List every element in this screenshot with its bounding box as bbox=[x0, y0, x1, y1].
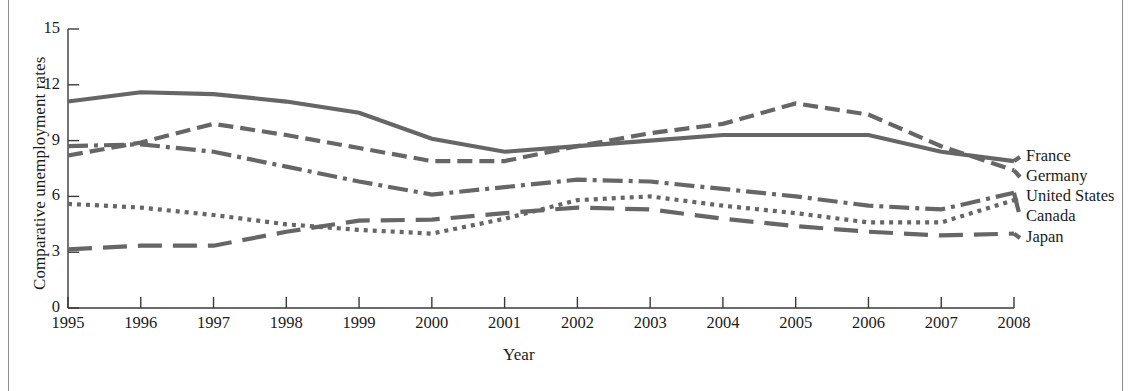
series-line-canada bbox=[68, 144, 1014, 209]
x-tick-label: 2008 bbox=[989, 313, 1039, 333]
x-tick-label: 2006 bbox=[843, 313, 893, 333]
legend-item-germany[interactable]: Germany bbox=[1026, 166, 1087, 186]
y-tick-label: 9 bbox=[20, 130, 60, 150]
x-tick-label: 2000 bbox=[407, 313, 457, 333]
x-tick-label: 1999 bbox=[334, 313, 384, 333]
legend-connector-germany bbox=[1014, 170, 1020, 177]
x-tick-label: 2004 bbox=[698, 313, 748, 333]
x-axis-title: Year bbox=[503, 345, 535, 365]
legend-item-united-states[interactable]: United States bbox=[1026, 186, 1114, 206]
y-tick-label: 0 bbox=[20, 297, 60, 317]
x-tick-label: 1998 bbox=[261, 313, 311, 333]
x-tick-label: 2007 bbox=[916, 313, 966, 333]
chart-series bbox=[68, 92, 1014, 249]
figure-container: Comparative unemployment rates Year 1995… bbox=[0, 0, 1139, 391]
x-tick-label: 1996 bbox=[116, 313, 166, 333]
x-tick-label: 2003 bbox=[625, 313, 675, 333]
legend-connector-canada bbox=[1014, 193, 1020, 217]
legend-connector-japan bbox=[1014, 234, 1020, 238]
y-tick-label: 3 bbox=[20, 241, 60, 261]
legend-item-france[interactable]: France bbox=[1026, 146, 1071, 166]
x-tick-label: 1997 bbox=[189, 313, 239, 333]
series-line-japan bbox=[68, 208, 1014, 250]
chart-axes bbox=[68, 29, 1014, 308]
legend-item-japan[interactable]: Japan bbox=[1026, 227, 1064, 247]
x-tick-label: 2001 bbox=[480, 313, 530, 333]
x-tick-label: 2005 bbox=[771, 313, 821, 333]
legend-connector-france bbox=[1014, 157, 1020, 161]
series-line-united-states bbox=[68, 196, 1014, 233]
legend-item-canada[interactable]: Canada bbox=[1026, 206, 1075, 226]
y-tick-label: 12 bbox=[20, 74, 60, 94]
y-tick-label: 15 bbox=[20, 18, 60, 38]
y-tick-label: 6 bbox=[20, 185, 60, 205]
legend-swatches bbox=[1014, 157, 1020, 238]
x-tick-label: 2002 bbox=[552, 313, 602, 333]
